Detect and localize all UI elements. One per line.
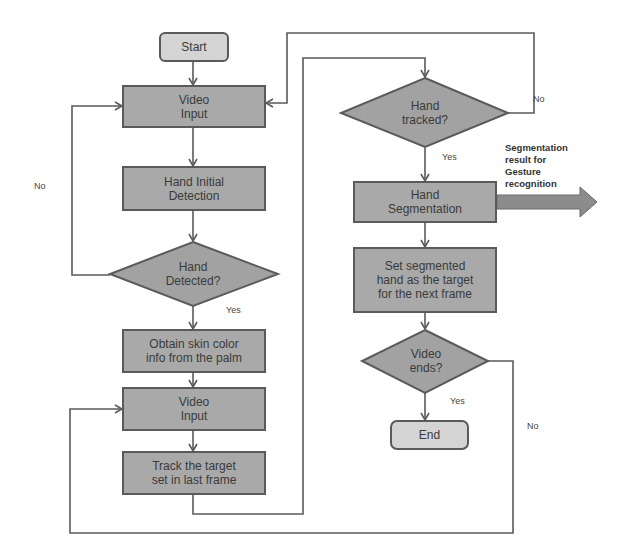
- gesture-output-arrow: [497, 187, 597, 217]
- gesture-output-note: Segmentation result for Gesture recognit…: [505, 142, 568, 190]
- start-text: Start: [181, 40, 206, 54]
- track-target-label: Track the target set in last frame: [123, 452, 265, 494]
- video-input-2-line2: Input: [181, 409, 208, 423]
- set-line3: for the next frame: [378, 287, 472, 301]
- video-input-1-line2: Input: [181, 107, 208, 121]
- hand-detected-line1: Hand: [179, 260, 208, 274]
- end-text: End: [419, 428, 440, 442]
- detection-line1: Hand Initial: [164, 175, 224, 189]
- skin-line1: Obtain skin color: [149, 337, 238, 351]
- flowchart-canvas: [0, 0, 619, 556]
- hand-tracked-no-label: No: [533, 94, 545, 105]
- video-input-2-label: Video Input: [123, 388, 265, 430]
- hand-tracked-label: Hand tracked?: [380, 95, 470, 131]
- end-label: End: [391, 421, 468, 449]
- hand-detected-label: Hand Detected?: [130, 256, 256, 292]
- edge-hand-detected-no: [72, 106, 122, 275]
- note-line2: result for: [505, 154, 568, 166]
- set-line1: Set segmented: [385, 259, 466, 273]
- video-ends-no-label: No: [527, 421, 539, 432]
- set-segmented-label: Set segmented hand as the target for the…: [354, 248, 496, 312]
- video-ends-line1: Video: [411, 347, 441, 361]
- video-input-2-line1: Video: [179, 395, 209, 409]
- track-line2: set in last frame: [152, 473, 237, 487]
- hand-detected-no-label: No: [34, 181, 46, 192]
- detection-line2: Detection: [169, 189, 220, 203]
- obtain-skin-color-label: Obtain skin color info from the palm: [123, 330, 265, 372]
- set-line2: hand as the target: [377, 273, 474, 287]
- hand-detected-yes-label: Yes: [226, 305, 241, 316]
- start-label: Start: [160, 33, 228, 61]
- segmentation-line1: Hand: [411, 188, 440, 202]
- note-line1: Segmentation: [505, 142, 568, 154]
- segmentation-line2: Segmentation: [388, 202, 462, 216]
- track-line1: Track the target: [152, 459, 236, 473]
- video-input-1-line1: Video: [179, 93, 209, 107]
- note-line4: recognition: [505, 178, 568, 190]
- hand-tracked-yes-label: Yes: [442, 152, 457, 163]
- video-input-1-label: Video Input: [123, 86, 265, 127]
- hand-tracked-line2: tracked?: [402, 113, 448, 127]
- video-ends-yes-label: Yes: [450, 396, 465, 407]
- hand-initial-detection-label: Hand Initial Detection: [123, 167, 265, 210]
- hand-segmentation-label: Hand Segmentation: [354, 182, 496, 222]
- skin-line2: info from the palm: [146, 351, 242, 365]
- video-ends-label: Video ends?: [390, 344, 462, 378]
- note-line3: Gesture: [505, 166, 568, 178]
- hand-tracked-line1: Hand: [411, 99, 440, 113]
- video-ends-line2: ends?: [410, 361, 443, 375]
- hand-detected-line2: Detected?: [166, 274, 221, 288]
